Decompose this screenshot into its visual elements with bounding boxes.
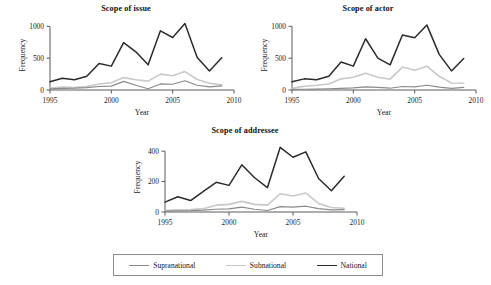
legend-label: Subnational xyxy=(250,261,286,270)
x-tick-label: 2005 xyxy=(407,96,422,105)
x-axis-label: Year xyxy=(135,108,150,117)
y-axis-label: Frequency xyxy=(260,38,269,71)
y-tick-label: 500 xyxy=(33,54,44,63)
chart-panel-scope-of-issue: Scope of issue 050010001995200020052010Y… xyxy=(10,4,242,122)
chart-title-scope-of-actor: Scope of actor xyxy=(252,4,484,14)
y-tick-label: 0 xyxy=(40,86,44,95)
y-tick-label: 400 xyxy=(148,147,159,156)
series-line-national xyxy=(292,25,464,82)
series-line-national xyxy=(50,24,222,82)
x-tick-label: 1995 xyxy=(285,96,300,105)
legend-item-subnational: Subnational xyxy=(226,261,286,270)
x-tick-label: 1995 xyxy=(43,96,58,105)
chart-title-scope-of-issue: Scope of issue xyxy=(10,4,242,14)
legend-swatch-line-icon xyxy=(129,265,149,266)
x-tick-label: 2000 xyxy=(222,218,237,227)
y-tick-label: 500 xyxy=(275,54,286,63)
series-line-national xyxy=(165,147,344,202)
legend-item-national: National xyxy=(317,261,367,270)
y-tick-label: 1000 xyxy=(271,22,286,31)
series-line-supranational xyxy=(50,81,222,89)
chart-svg-scope-of-actor: 050010001995200020052010YearFrequency xyxy=(252,14,484,120)
x-tick-label: 2010 xyxy=(350,218,365,227)
y-axis-label: Frequency xyxy=(133,160,142,193)
legend-label: National xyxy=(341,261,367,270)
chart-panel-scope-of-addressee: Scope of addressee 020040019952000200520… xyxy=(125,126,365,244)
x-axis-label: Year xyxy=(377,108,392,117)
x-tick-label: 2000 xyxy=(346,96,361,105)
chart-svg-scope-of-addressee: 02004001995200020052010YearFrequency xyxy=(125,136,365,242)
x-tick-label: 2005 xyxy=(286,218,301,227)
x-tick-label: 2000 xyxy=(104,96,119,105)
y-tick-label: 0 xyxy=(282,86,286,95)
x-tick-label: 2010 xyxy=(227,96,242,105)
y-tick-label: 0 xyxy=(155,208,159,217)
x-tick-label: 2010 xyxy=(469,96,484,105)
chart-legend-box: SupranationalSubnationalNational xyxy=(113,254,383,276)
x-axis-label: Year xyxy=(254,230,269,239)
legend-label: Supranational xyxy=(153,261,195,270)
chart-panel-scope-of-actor: Scope of actor 050010001995200020052010Y… xyxy=(252,4,484,122)
series-line-supranational xyxy=(165,206,344,211)
legend-swatch-line-icon xyxy=(226,265,246,266)
series-line-subnational xyxy=(292,66,464,88)
chart-svg-scope-of-issue: 050010001995200020052010YearFrequency xyxy=(10,14,242,120)
y-tick-label: 1000 xyxy=(29,22,44,31)
x-tick-label: 2005 xyxy=(165,96,180,105)
figure-panel-group: Scope of issue 050010001995200020052010Y… xyxy=(0,0,491,285)
y-axis-label: Frequency xyxy=(18,38,27,71)
x-tick-label: 1995 xyxy=(158,218,173,227)
chart-legend: SupranationalSubnationalNational xyxy=(113,254,383,278)
y-tick-label: 200 xyxy=(148,177,159,186)
legend-item-supranational: Supranational xyxy=(129,261,195,270)
legend-swatch-line-icon xyxy=(317,265,337,266)
chart-title-scope-of-addressee: Scope of addressee xyxy=(125,126,365,136)
